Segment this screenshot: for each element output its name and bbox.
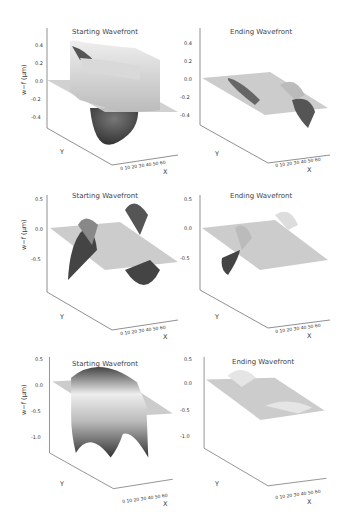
y-axis-label: Y [215, 313, 219, 321]
y-axis-label: Y [60, 480, 64, 488]
z-tick: 0.0 [35, 226, 43, 232]
z-tick: -0.4 [31, 114, 41, 120]
z-axis-label: w−f (μm) [20, 219, 28, 250]
z-tick: 0.5 [184, 356, 192, 362]
z-tick: 0.5 [35, 196, 43, 202]
z-tick: -0.5 [31, 256, 41, 262]
z-axis-label: w−f (μm) [20, 384, 28, 415]
chart-title: Ending Wavefront [230, 192, 292, 200]
surface-plot-2 [180, 0, 357, 175]
z-tick: -0.2 [31, 96, 41, 102]
z-tick: 0.5 [35, 356, 43, 362]
z-tick: -0.4 [180, 112, 190, 118]
z-tick: -0.2 [180, 94, 190, 100]
plot-starting-wavefront-1: Starting Wavefront w−f (μm) 0.4 0.2 0.0 … [0, 0, 178, 175]
z-tick: -0.5 [180, 407, 190, 413]
y-axis-label: Y [60, 313, 64, 321]
z-tick: 0.4 [35, 42, 43, 48]
z-tick: 0.4 [184, 40, 192, 46]
y-axis-label: Y [215, 150, 219, 158]
z-tick: 0.2 [35, 60, 43, 66]
z-tick: -1.0 [31, 434, 41, 440]
y-axis-label: Y [60, 148, 64, 156]
x-axis-label: X [307, 498, 311, 506]
plot-ending-wavefront-1: Ending Wavefront 0.4 0.2 0.0 -0.2 -0.4 Y… [180, 0, 357, 175]
plot-ending-wavefront-2: Ending Wavefront 0.5 0.0 -0.5 Y 0 10 20 … [180, 170, 357, 345]
z-tick: 0.0 [184, 76, 192, 82]
z-tick: 0.0 [35, 78, 43, 84]
z-tick: 0.0 [35, 382, 43, 388]
z-tick: -0.5 [180, 255, 190, 261]
chart-title: Ending Wavefront [230, 28, 292, 36]
plot-ending-wavefront-3: Ending Wavefront 0.5 0.0 -0.5 -1.0 Y 0 1… [180, 340, 357, 515]
y-axis-label: Y [215, 480, 219, 488]
x-axis-label: X [307, 332, 311, 340]
z-tick: 0.5 [184, 196, 192, 202]
chart-title: Starting Wavefront [72, 28, 138, 36]
z-axis-label: w−f (μm) [20, 64, 28, 95]
z-tick: -0.5 [31, 408, 41, 414]
z-tick: -1.0 [180, 433, 190, 439]
chart-title: Starting Wavefront [72, 192, 138, 200]
surface-plot-6 [180, 340, 357, 515]
plot-starting-wavefront-2: Starting Wavefront w−f (μm) 0.5 0.0 -0.5… [0, 170, 178, 345]
plot-starting-wavefront-3: Starting Wavefront w−f (μm) 0.5 0.0 -0.5… [0, 340, 178, 515]
chart-title: Ending Wavefront [232, 358, 294, 366]
x-axis-label: X [163, 500, 167, 508]
z-tick: 0.2 [184, 58, 192, 64]
z-tick: 0.0 [184, 380, 192, 386]
z-tick: 0.0 [184, 225, 192, 231]
chart-title: Starting Wavefront [72, 360, 138, 368]
